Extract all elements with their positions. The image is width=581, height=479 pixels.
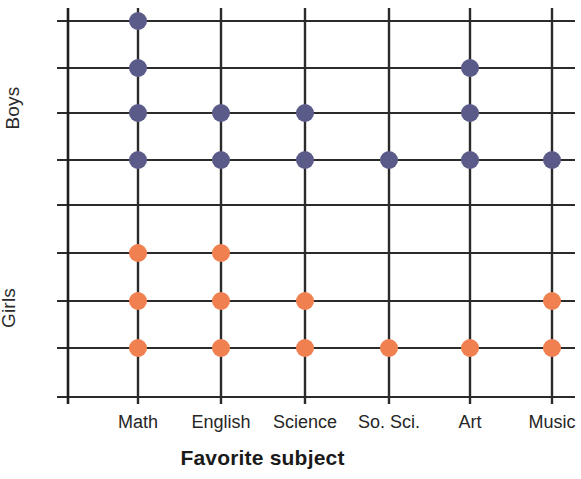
data-point-boys-math-1	[129, 12, 147, 30]
data-point-girls-english-8	[212, 339, 230, 357]
data-point-boys-music-4	[543, 151, 561, 169]
plot-area	[0, 0, 581, 479]
data-point-boys-english-4	[212, 151, 230, 169]
x-tick-label-english: English	[191, 412, 250, 433]
x-tick-label-art: Art	[458, 412, 481, 433]
data-point-boys-so-sci-4	[380, 151, 398, 169]
x-tick-label-science: Science	[273, 412, 337, 433]
data-point-boys-math-2	[129, 59, 147, 77]
dot-plot-chart: Boys Girls MathEnglishScienceSo. Sci.Art…	[0, 0, 581, 479]
x-tick-label-math: Math	[118, 412, 158, 433]
data-point-girls-english-7	[212, 292, 230, 310]
data-point-girls-art-8	[461, 339, 479, 357]
y-axis-label-boys: Boys	[2, 86, 24, 129]
data-point-girls-math-6	[129, 244, 147, 262]
data-point-girls-music-8	[543, 339, 561, 357]
data-point-girls-so-sci-8	[380, 339, 398, 357]
data-point-boys-science-4	[296, 151, 314, 169]
data-point-boys-art-2	[461, 59, 479, 77]
x-tick-label-music: Music	[528, 412, 575, 433]
chart-title: Favorite subject	[0, 446, 581, 470]
data-point-girls-music-7	[543, 292, 561, 310]
data-point-girls-english-6	[212, 244, 230, 262]
data-point-girls-science-7	[296, 292, 314, 310]
y-axis-label-girls: Girls	[0, 288, 20, 328]
x-tick-label-so-sci: So. Sci.	[358, 412, 420, 433]
data-point-boys-art-4	[461, 151, 479, 169]
chart-title-text: Favorite subject	[180, 446, 344, 470]
data-point-boys-science-3	[296, 104, 314, 122]
data-point-girls-math-7	[129, 292, 147, 310]
data-point-girls-math-8	[129, 339, 147, 357]
data-point-boys-art-3	[461, 104, 479, 122]
data-point-boys-english-3	[212, 104, 230, 122]
data-point-girls-science-8	[296, 339, 314, 357]
data-point-boys-math-4	[129, 151, 147, 169]
data-point-boys-math-3	[129, 104, 147, 122]
